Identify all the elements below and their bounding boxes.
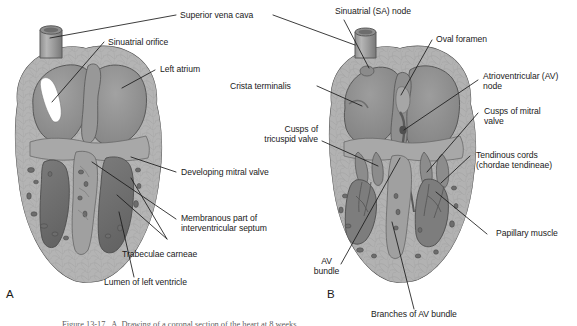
superior-vena-cava-a (40, 26, 62, 58)
anatomy-figure: Superior vena cava Sinuatrial orifice Le… (0, 0, 577, 326)
figure-caption: Figure 13-17 A, Drawing of a coronal sec… (62, 320, 532, 326)
label-branches-of-av-bundle: Branches of AV bundle (371, 309, 457, 319)
label-mitral-line1: Cusps of mitral (484, 106, 541, 116)
label-av-node-line1: Atrioventricular (AV) (483, 71, 558, 81)
label-av-bundle-line1: AV (308, 256, 345, 266)
label-mitral-line2: valve (484, 116, 541, 126)
panel-letter-a: A (6, 288, 14, 300)
label-developing-mitral-valve: Developing mitral valve (181, 167, 269, 177)
label-crista-terminalis: Crista terminalis (230, 81, 291, 91)
label-tendinous-line1: Tendinous cords (476, 150, 552, 160)
superior-vena-cava-b (355, 28, 376, 58)
label-sinuatrial-sa-node: Sinuatrial (SA) node (335, 6, 411, 16)
label-membranous-line2: interventricular septum (181, 223, 267, 233)
heart-panel-a (15, 46, 162, 283)
label-tendinous-line2: (chordae tendineae) (476, 160, 552, 170)
label-tricuspid-line1: Cusps of (264, 124, 318, 134)
label-sinuatrial-orifice: Sinuatrial orifice (108, 37, 168, 47)
label-membranous-part-interventricular-septum: Membranous part of interventricular sept… (181, 213, 267, 234)
label-membranous-line1: Membranous part of (181, 213, 267, 223)
label-lumen-of-left-ventricle: Lumen of left ventricle (104, 277, 187, 287)
panel-letter-b: B (327, 288, 335, 300)
label-papillary-muscle: Papillary muscle (496, 228, 558, 238)
label-tricuspid-line2: tricuspid valve (264, 134, 318, 144)
label-cusps-of-tricuspid-valve: Cusps of tricuspid valve (264, 124, 318, 145)
label-av-bundle-line2: bundle (308, 266, 345, 276)
label-trabeculae-carneae: Trabeculae carneae (122, 249, 197, 259)
label-left-atrium: Left atrium (160, 64, 200, 74)
label-atrioventricular-av-node: Atrioventricular (AV) node (483, 71, 558, 92)
label-av-node-line2: node (483, 81, 558, 91)
heart-panel-b (329, 46, 476, 283)
label-cusps-of-mitral-valve: Cusps of mitral valve (484, 106, 541, 127)
label-tendinous-cords: Tendinous cords (chordae tendineae) (476, 150, 552, 171)
label-superior-vena-cava: Superior vena cava (180, 10, 253, 20)
label-oval-foramen: Oval foramen (436, 34, 487, 44)
label-av-bundle: AV bundle (308, 256, 345, 277)
